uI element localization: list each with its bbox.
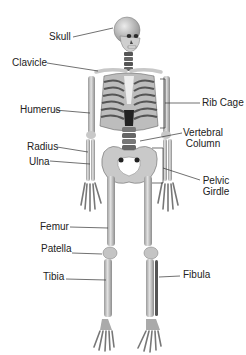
tibia-leader-line (66, 279, 106, 280)
lumbar-vertebrae (122, 127, 136, 150)
label-vertebral-column: Vertebral Column (180, 127, 226, 149)
left-leg-bones (94, 176, 117, 351)
skull-bone (114, 17, 140, 52)
femur-leader-line (70, 227, 108, 228)
skull-leader-line (73, 28, 113, 37)
ulna-leader-line (50, 161, 90, 164)
rib-cage-bones (100, 73, 158, 131)
skeleton-diagram: Skull Clavicle Humerus Rib Cage Vertebra… (0, 0, 246, 355)
label-ulna: Ulna (29, 156, 50, 167)
clavicle-leader-line (47, 63, 98, 71)
label-pelvic-girdle: Pelvic Girdle (200, 175, 232, 197)
right-arm-bones (158, 76, 178, 211)
label-clavicle: Clavicle (12, 57, 47, 68)
left-arm-bones (81, 76, 101, 211)
label-vertebral-line2: Column (180, 138, 226, 149)
fibula-leader-line (159, 276, 180, 277)
label-femur: Femur (40, 221, 69, 232)
label-fibula: Fibula (183, 269, 210, 280)
neck-vertebrae (124, 52, 133, 71)
label-tibia: Tibia (43, 271, 64, 282)
label-humerus: Humerus (20, 104, 61, 115)
vertebral-leader-line (140, 133, 182, 141)
radius-leader-line (57, 147, 88, 152)
label-rib-cage: Rib Cage (202, 97, 244, 108)
label-pelvic-line2: Girdle (200, 186, 232, 197)
patella-leader-line (72, 253, 102, 254)
label-patella: Patella (41, 243, 72, 254)
label-pelvic-line1: Pelvic (200, 175, 232, 186)
label-skull: Skull (49, 31, 71, 42)
label-radius: Radius (27, 141, 58, 152)
label-vertebral-line1: Vertebral (180, 127, 226, 138)
